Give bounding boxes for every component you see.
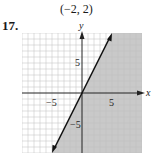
x-axis-label: x: [145, 87, 151, 98]
x-tick-neg5: −5: [46, 97, 57, 108]
y-axis-label: y: [78, 20, 84, 31]
y-axis-arrow-icon: [80, 31, 85, 39]
graph: y x −5 5 5 −5: [0, 0, 152, 160]
y-tick-5: 5: [75, 57, 80, 68]
x-tick-5: 5: [109, 97, 114, 108]
y-tick-neg5: −5: [70, 119, 81, 130]
